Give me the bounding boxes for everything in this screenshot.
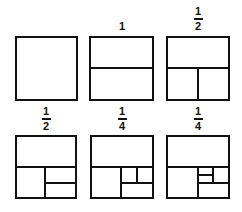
panel-5-fraction: 1 4 (107, 106, 137, 132)
denominator: 4 (183, 121, 213, 132)
numerator: 1 (107, 106, 137, 117)
panel-2 (90, 37, 153, 100)
numerator: 1 (31, 106, 61, 117)
panel-3 (167, 37, 229, 100)
panel-4 (16, 136, 76, 198)
panel-4-fraction: 1 2 (31, 106, 61, 132)
panel-1 (16, 37, 77, 100)
panel-outline (16, 37, 77, 100)
numerator: 1 (183, 6, 213, 17)
panel-6-fraction: 1 4 (183, 106, 213, 132)
panel-5 (91, 136, 153, 198)
denominator: 2 (31, 121, 61, 132)
numerator: 1 (183, 106, 213, 117)
denominator: 2 (183, 21, 213, 32)
panel-2-label: 1 (107, 20, 137, 32)
denominator: 4 (107, 121, 137, 132)
panel-3-fraction: 1 2 (183, 6, 213, 32)
panel-6 (167, 136, 229, 198)
